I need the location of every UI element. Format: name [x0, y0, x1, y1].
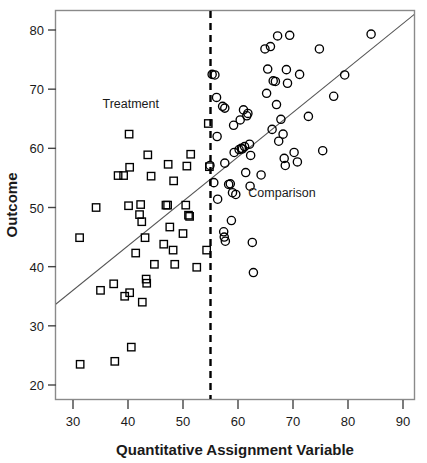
x-tick-label: 50: [176, 414, 190, 429]
y-tick-label: 50: [30, 201, 44, 216]
x-tick-label: 80: [341, 414, 355, 429]
y-tick-label: 60: [30, 141, 44, 156]
y-axis-ticks: 20304050607080: [30, 23, 56, 393]
x-tick-label: 40: [121, 414, 135, 429]
y-tick-label: 40: [30, 260, 44, 275]
regression-discontinuity-scatter-figure: 20304050607080 30405060708090 TreatmentC…: [0, 0, 427, 463]
scatter-plot-svg: 20304050607080 30405060708090 TreatmentC…: [0, 0, 427, 463]
x-tick-label: 70: [286, 414, 300, 429]
x-tick-label: 60: [231, 414, 245, 429]
x-axis-ticks: 30405060708090: [66, 400, 410, 429]
y-tick-label: 30: [30, 319, 44, 334]
x-axis-title: Quantitative Assignment Variable: [116, 441, 354, 458]
plot-area-border: [56, 11, 415, 400]
annotation-comparison: Comparison: [248, 186, 315, 200]
y-tick-label: 20: [30, 378, 44, 393]
x-tick-label: 90: [396, 414, 410, 429]
y-tick-label: 70: [30, 82, 44, 97]
annotation-treatment: Treatment: [102, 97, 159, 111]
x-tick-label: 30: [66, 414, 80, 429]
y-axis-title: Outcome: [3, 172, 20, 237]
y-tick-label: 80: [30, 23, 44, 38]
